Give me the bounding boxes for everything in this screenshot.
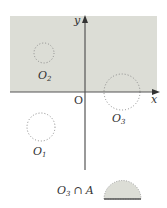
intersection-label: O3∩A bbox=[57, 184, 94, 198]
circle-o1 bbox=[27, 113, 55, 141]
x-axis-label: x bbox=[151, 93, 158, 106]
label-o3: O3 bbox=[112, 112, 126, 126]
origin-label: O bbox=[74, 94, 83, 107]
label-o1: O1 bbox=[33, 145, 47, 159]
diagram-canvas: y x O O2 O3 O1 O3∩A bbox=[0, 0, 167, 208]
y-axis-label: y bbox=[73, 14, 81, 27]
shaded-region-a bbox=[10, 16, 157, 92]
intersection-half-disk bbox=[104, 181, 141, 200]
diagram-svg: y x O O2 O3 O1 O3∩A bbox=[0, 0, 167, 208]
